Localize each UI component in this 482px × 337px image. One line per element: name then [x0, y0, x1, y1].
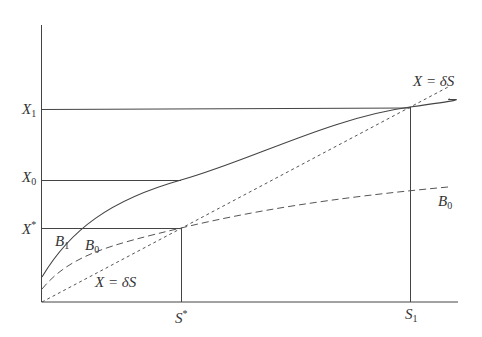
b0-left-label-text: B: [85, 237, 94, 253]
s1-label-text: S: [405, 306, 413, 322]
x1-label-sub: 1: [31, 108, 36, 119]
b0-right-label-text: B: [438, 193, 447, 209]
x-label-s1: S1: [405, 307, 418, 324]
y-label-x1: X1: [22, 102, 36, 119]
xstar-label-text: X: [22, 221, 31, 237]
b0-left-label-sub: 0: [94, 244, 99, 255]
diagram-canvas: [0, 0, 482, 337]
b1-curve: [42, 99, 456, 277]
x0-label-sub: 0: [31, 176, 36, 187]
curve-label-b0-right: B0: [438, 194, 452, 211]
sstar-label-text: S: [175, 310, 183, 326]
b1-label-text: B: [55, 233, 64, 249]
x-equals-delta-s-line: [42, 86, 450, 302]
line-label-top: X = δS: [413, 74, 454, 89]
b1-label-sub: 1: [64, 240, 69, 251]
x1-level-line: [42, 108, 411, 110]
line-label-bottom: X = δS: [95, 275, 136, 290]
y-label-xstar: X*: [22, 220, 36, 237]
b0-right-label-sub: 0: [447, 200, 452, 211]
curve-label-b1: B1: [55, 234, 69, 251]
curve-label-b0-left: B0: [85, 238, 99, 255]
x-label-sstar: S*: [175, 309, 188, 326]
x0-label-text: X: [22, 169, 31, 185]
x1-label-text: X: [22, 101, 31, 117]
sstar-label-sup: *: [183, 308, 188, 319]
s1-label-sub: 1: [413, 313, 418, 324]
xstar-label-sup: *: [31, 219, 36, 230]
y-label-x0: X0: [22, 170, 36, 187]
